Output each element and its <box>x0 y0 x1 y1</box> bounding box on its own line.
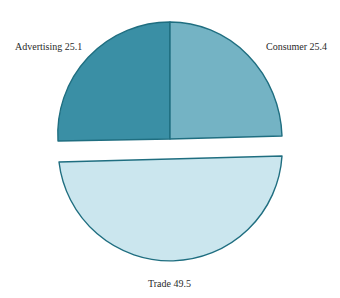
label-advertising: Advertising 25.1 <box>15 41 82 53</box>
pie-chart: Advertising 25.1 Consumer 25.4 Trade 49.… <box>0 0 340 298</box>
slice-consumer <box>170 22 282 139</box>
slice-advertising <box>58 22 170 141</box>
label-consumer: Consumer 25.4 <box>266 41 327 53</box>
slice-trade <box>59 156 282 261</box>
label-trade: Trade 49.5 <box>148 278 191 290</box>
